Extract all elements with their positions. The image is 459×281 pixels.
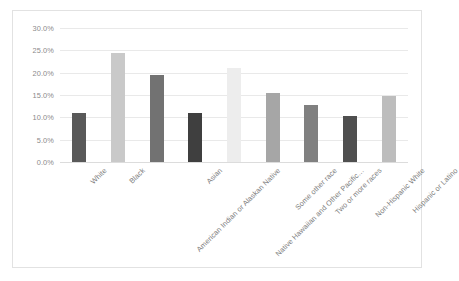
y-tick-label: 30.0% <box>33 24 54 33</box>
bar-slot <box>382 28 396 162</box>
bar[interactable] <box>72 113 86 162</box>
gridline-0 <box>60 162 408 163</box>
bar[interactable] <box>150 75 164 162</box>
y-tick-label: 0.0% <box>37 158 54 167</box>
bar-series <box>60 28 408 162</box>
bar[interactable] <box>304 105 318 162</box>
bar[interactable] <box>188 113 202 162</box>
y-tick-label: 15.0% <box>33 91 54 100</box>
category-label: Asian <box>205 166 225 186</box>
bar-slot <box>150 28 164 162</box>
bar-slot <box>111 28 125 162</box>
bar-slot <box>227 28 241 162</box>
bar-slot <box>304 28 318 162</box>
bar[interactable] <box>111 53 125 162</box>
plot-area <box>60 28 408 162</box>
bar[interactable] <box>266 93 280 162</box>
y-tick-label: 10.0% <box>33 113 54 122</box>
y-axis-tick-labels: 30.0%25.0%20.0%15.0%10.0%5.0%0.0% <box>13 28 58 162</box>
y-tick-label: 5.0% <box>37 135 54 144</box>
x-axis-category-labels: WhiteBlackAmerican Indian or Alaskan Nat… <box>60 164 408 264</box>
bar-slot <box>72 28 86 162</box>
bar[interactable] <box>227 68 241 162</box>
bar-slot <box>266 28 280 162</box>
bar-slot <box>188 28 202 162</box>
category-label: White <box>89 166 109 186</box>
y-tick-label: 25.0% <box>33 46 54 55</box>
bar[interactable] <box>343 116 357 162</box>
bar-slot <box>343 28 357 162</box>
bar[interactable] <box>382 96 396 162</box>
category-label: Black <box>127 166 146 185</box>
chart-frame: 30.0%25.0%20.0%15.0%10.0%5.0%0.0% WhiteB… <box>12 10 422 268</box>
y-tick-label: 20.0% <box>33 68 54 77</box>
